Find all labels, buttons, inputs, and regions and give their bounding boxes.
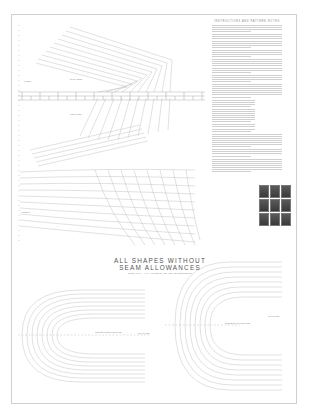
bottom-left-u-shapes (22, 290, 145, 382)
text-paragraph (212, 59, 282, 73)
label-grain-right: GRAIN LINE (268, 315, 279, 317)
text-paragraph (212, 124, 282, 131)
instructions-title: INSTRUCTIONS AND PATTERN NOTES (212, 20, 282, 23)
label-side-panel: SIDE PANEL (70, 113, 82, 115)
instructions-column: INSTRUCTIONS AND PATTERN NOTES (212, 20, 282, 174)
label-sleeve: SLEEVE (22, 211, 30, 213)
label-front: FRONT (24, 80, 31, 82)
heading-line-1: ALL SHAPES WITHOUT (112, 257, 208, 264)
text-paragraph (212, 134, 282, 148)
label-grain-left: GRAIN LINE (138, 332, 149, 334)
photo-grid (259, 185, 293, 227)
label-back-piece: BACK PIECE (70, 78, 82, 80)
photo-thumbnail (270, 199, 280, 212)
photo-thumbnail (259, 185, 269, 198)
photo-thumbnail (281, 185, 291, 198)
text-paragraph (212, 159, 282, 173)
photo-thumbnail (281, 199, 291, 212)
photo-thumbnail (281, 213, 291, 226)
middle-pattern-lines (80, 98, 170, 140)
bottom-right-u-shapes (175, 262, 282, 390)
photo-thumbnail (270, 185, 280, 198)
text-paragraph (212, 109, 282, 123)
upper-pattern-lines (36, 27, 172, 92)
heading-line-2: SEAM ALLOWANCES (112, 264, 208, 271)
label-center-front: CENTER FRONT FOLD LINE (95, 331, 122, 333)
text-paragraph (212, 84, 282, 98)
photo-thumbnail (259, 213, 269, 226)
text-paragraph (212, 34, 282, 48)
main-heading: ALL SHAPES WITHOUT SEAM ALLOWANCES (112, 257, 208, 271)
measuring-ruler (18, 92, 205, 100)
photo-thumbnail (270, 213, 280, 226)
subheading: SIZE 0/00 - 0/0 AMPERSAND MEASUREMENTS (118, 272, 202, 275)
text-paragraph (212, 25, 282, 32)
lower-diagonal-lines (30, 125, 148, 166)
text-paragraph (212, 100, 282, 107)
photo-thumbnail (259, 199, 269, 212)
text-paragraph (212, 50, 282, 57)
crossing-curves (20, 169, 200, 245)
text-paragraph (212, 149, 282, 156)
label-center-back: CENTER BACK FOLD LINE (225, 322, 250, 324)
text-paragraph (212, 75, 282, 82)
